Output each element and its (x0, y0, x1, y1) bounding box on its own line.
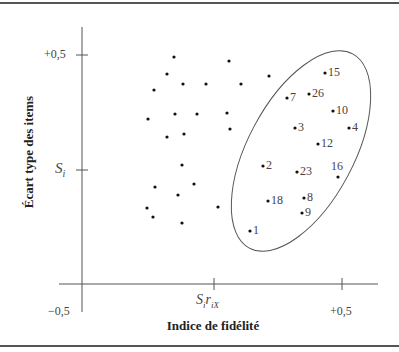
data-point-item-3 (293, 126, 296, 129)
data-point (227, 59, 230, 62)
data-point (145, 206, 148, 209)
x-tick-label-mid: SiriX (196, 292, 219, 310)
data-point-item-12 (316, 142, 319, 145)
data-point-item-23 (295, 170, 298, 173)
data-point (152, 88, 155, 91)
point-label-23: 23 (300, 164, 312, 179)
data-point (228, 127, 231, 130)
data-point (153, 185, 156, 188)
point-label-26: 26 (312, 86, 324, 101)
point-label-3: 3 (298, 120, 304, 135)
point-label-10: 10 (336, 103, 348, 118)
data-point-item-26 (307, 92, 310, 95)
data-point (165, 72, 168, 75)
y-tick-si-base: S (55, 160, 63, 176)
x-tick-label-left: −0,5 (48, 304, 70, 319)
data-point-item-15 (323, 71, 326, 74)
data-point (180, 221, 183, 224)
x-tick-label-right: +0,5 (330, 304, 352, 319)
y-tick-label-si: Si (55, 160, 65, 179)
data-point (192, 182, 195, 185)
point-label-8: 8 (307, 190, 313, 205)
data-point (146, 117, 149, 120)
data-point-item-4 (347, 126, 350, 129)
data-point-item-1 (248, 229, 251, 232)
data-point (195, 112, 198, 115)
point-label-4: 4 (352, 120, 358, 135)
data-point-item-9 (300, 211, 303, 214)
point-label-2: 2 (266, 158, 272, 173)
data-point-item-8 (302, 196, 305, 199)
data-point-item-2 (261, 164, 264, 167)
data-points (145, 55, 350, 232)
data-point (267, 74, 270, 77)
x-tick-mid-sub2: iX (211, 300, 219, 310)
point-label-12: 12 (321, 136, 333, 151)
y-tick-si-sub: i (63, 168, 66, 179)
data-point-item-16 (336, 175, 339, 178)
data-point (182, 132, 185, 135)
y-tick-label-top: +0,5 (44, 47, 66, 62)
data-point (176, 193, 179, 196)
data-point (173, 112, 176, 115)
data-point (180, 163, 183, 166)
point-label-9: 9 (305, 205, 311, 220)
selection-ellipse (203, 29, 399, 273)
point-label-7: 7 (290, 90, 296, 105)
data-point (204, 82, 207, 85)
x-axis-title: Indice de fidélité (167, 318, 259, 334)
data-point-item-10 (331, 109, 334, 112)
x-tick-mid-base: S (196, 292, 203, 307)
data-point (225, 111, 228, 114)
data-point-item-7 (285, 96, 288, 99)
point-label-16: 16 (331, 159, 343, 174)
data-point (239, 82, 242, 85)
data-point (165, 135, 168, 138)
data-point (172, 55, 175, 58)
data-point (151, 215, 154, 218)
point-label-1: 1 (253, 223, 259, 238)
data-point-item-18 (266, 199, 269, 202)
y-axis-title: Écart type des items (21, 96, 37, 208)
data-point (216, 205, 219, 208)
point-label-18: 18 (271, 193, 283, 208)
point-label-15: 15 (328, 65, 340, 80)
data-point (181, 82, 184, 85)
